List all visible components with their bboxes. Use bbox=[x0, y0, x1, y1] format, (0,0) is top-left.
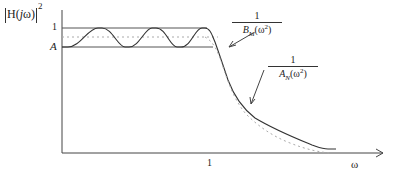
bm-numerator: 1 bbox=[232, 10, 282, 23]
x-tick-one: 1 bbox=[207, 158, 212, 168]
x-axis-label: ω bbox=[351, 159, 358, 170]
y-tick-a: A bbox=[50, 41, 57, 52]
an-numerator: 1 bbox=[268, 54, 318, 67]
an-denominator: AN(ω2) bbox=[268, 67, 318, 83]
an-pointer-line bbox=[251, 70, 264, 104]
y-tick-one: 1 bbox=[52, 22, 57, 32]
ripple-response-curve bbox=[62, 28, 336, 149]
filter-response-diagram bbox=[0, 0, 403, 179]
bm-denominator: BM(ω2) bbox=[232, 23, 282, 39]
an-annotation: 1 AN(ω2) bbox=[268, 54, 318, 83]
y-axis-label: H(jω)2 bbox=[4, 6, 42, 23]
bm-annotation: 1 BM(ω2) bbox=[232, 10, 282, 39]
